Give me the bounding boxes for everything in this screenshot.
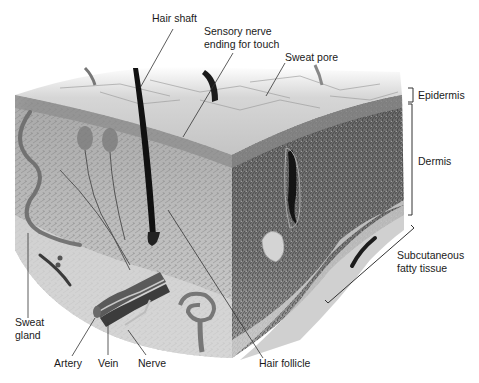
label-sweat-gland: Sweat gland bbox=[15, 316, 44, 341]
label-dermis: Dermis bbox=[418, 155, 451, 168]
label-sensory-nerve-ending: Sensory nerve ending for touch bbox=[204, 25, 279, 50]
label-sweat-pore: Sweat pore bbox=[285, 51, 338, 64]
label-vein: Vein bbox=[98, 357, 118, 370]
label-epidermis: Epidermis bbox=[418, 89, 465, 102]
label-subcutaneous-fatty-tissue: Subcutaneous fatty tissue bbox=[397, 249, 464, 274]
label-hair-follicle: Hair follicle bbox=[259, 357, 310, 370]
label-nerve: Nerve bbox=[138, 357, 166, 370]
label-artery: Artery bbox=[54, 357, 82, 370]
skin-cross-section-illustration bbox=[0, 0, 479, 383]
skin-diagram: Hair shaft Sensory nerve ending for touc… bbox=[0, 0, 479, 383]
label-hair-shaft: Hair shaft bbox=[152, 12, 197, 25]
